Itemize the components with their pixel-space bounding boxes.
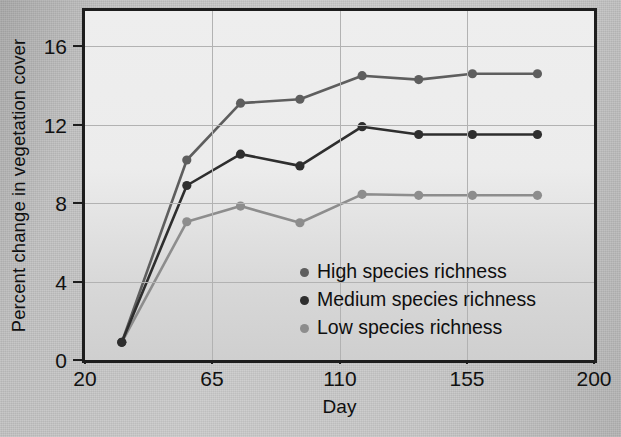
data-point-marker: [295, 218, 304, 227]
data-point-marker: [358, 122, 367, 131]
legend-marker-dot-icon: [300, 296, 309, 305]
data-point-marker: [295, 95, 304, 104]
y-axis-tick-mark: [73, 124, 82, 126]
data-point-marker: [414, 130, 423, 139]
x-axis-tick-label: 65: [172, 368, 252, 389]
gridline-vertical: [212, 11, 213, 360]
data-point-marker: [414, 75, 423, 84]
y-axis-label: Percent change in vegetation cover: [8, 8, 30, 363]
x-axis-label: Day: [82, 396, 597, 418]
y-axis-tick-mark: [73, 281, 82, 283]
data-point-marker: [295, 161, 304, 170]
legend-item: High species richness: [300, 258, 536, 286]
data-point-marker: [236, 150, 245, 159]
line-chart-figure: 0481216 2065110155200 Percent change in …: [0, 0, 621, 437]
legend: High species richnessMedium species rich…: [300, 258, 536, 342]
legend-item: Low species richness: [300, 314, 536, 342]
data-point-marker: [468, 130, 477, 139]
data-point-marker: [533, 69, 542, 78]
data-point-marker: [533, 191, 542, 200]
data-point-marker: [414, 191, 423, 200]
data-point-marker: [468, 191, 477, 200]
x-axis-tick-label: 20: [45, 368, 125, 389]
legend-item-label: Medium species richness: [317, 290, 536, 310]
data-point-marker: [182, 155, 191, 164]
legend-item-label: High species richness: [317, 262, 507, 282]
legend-marker-dot-icon: [300, 324, 309, 333]
legend-marker-dot-icon: [300, 268, 309, 277]
legend-item-label: Low species richness: [317, 318, 502, 338]
data-point-marker: [182, 217, 191, 226]
data-point-marker: [533, 130, 542, 139]
legend-item: Medium species richness: [300, 286, 536, 314]
x-axis-tick-label: 155: [427, 368, 507, 389]
data-point-marker: [182, 181, 191, 190]
y-axis-tick-mark: [73, 202, 82, 204]
x-axis-tick-label: 110: [300, 368, 380, 389]
data-point-marker: [358, 71, 367, 80]
data-point-marker: [236, 99, 245, 108]
data-point-marker: [117, 338, 126, 347]
data-point-marker: [468, 69, 477, 78]
x-axis-tick-label: 200: [554, 368, 621, 389]
y-axis-tick-mark: [73, 45, 82, 47]
y-axis-tick-mark: [73, 359, 82, 361]
data-point-marker: [358, 190, 367, 199]
